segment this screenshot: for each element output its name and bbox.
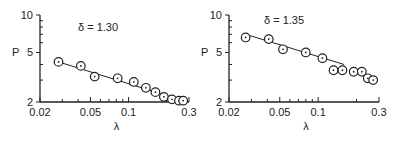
x-tick-label: 0.02 <box>29 106 50 118</box>
y-tick-label: 10 <box>21 9 33 21</box>
data-point-center <box>333 69 335 71</box>
x-tick-label: 0.02 <box>218 106 239 118</box>
data-point-center <box>305 52 307 54</box>
data-point-center <box>133 81 135 83</box>
x-tick-label: 0.1 <box>310 106 325 118</box>
x-tick-label: 0.05 <box>269 106 290 118</box>
data-point-center <box>80 65 82 67</box>
x-tick-label: 0.3 <box>371 106 386 118</box>
data-point-center <box>155 91 157 93</box>
x-tick-label: 0.05 <box>80 106 101 118</box>
plot-delta-1-35: 25100.020.050.10.3Pλδ = 1.35 <box>188 0 401 143</box>
data-point-center <box>282 48 284 50</box>
y-tick-label: 5 <box>216 46 222 58</box>
data-point-center <box>171 98 173 100</box>
chart-right: 25100.020.050.10.3Pλδ = 1.35 <box>188 0 388 143</box>
y-axis-label: P <box>201 46 208 58</box>
data-point-center <box>353 71 355 73</box>
data-point-center <box>322 57 324 59</box>
chart-title: δ = 1.30 <box>78 21 118 33</box>
y-axis-label: P <box>12 46 19 58</box>
chart-left: 25100.020.050.10.3Pλδ = 1.30 <box>0 0 200 143</box>
x-tick-label: 0.1 <box>121 106 136 118</box>
data-point-center <box>94 76 96 78</box>
data-point-center <box>117 77 119 79</box>
data-point-center <box>145 87 147 89</box>
fit-line <box>246 34 345 64</box>
data-point-center <box>245 37 247 39</box>
data-point-center <box>182 100 184 102</box>
plot-delta-1-30: 25100.020.050.10.3Pλδ = 1.30 <box>0 0 200 143</box>
chart-title: δ = 1.35 <box>264 14 304 26</box>
data-point-center <box>163 96 165 98</box>
data-point-center <box>268 38 270 40</box>
data-point-center <box>342 69 344 71</box>
data-point-center <box>58 61 60 63</box>
data-point-center <box>372 79 374 81</box>
x-axis-label: λ <box>114 120 120 132</box>
y-tick-label: 10 <box>210 9 222 21</box>
x-axis-label: λ <box>303 120 309 132</box>
y-tick-label: 5 <box>27 46 33 58</box>
data-point-center <box>361 71 363 73</box>
